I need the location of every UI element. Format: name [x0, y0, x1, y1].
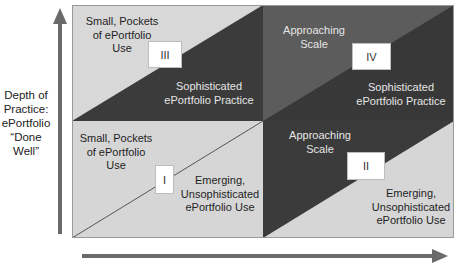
- quadrant-iv: Approaching Scale Sophisticated ePortfol…: [263, 5, 454, 121]
- text-line: of ePortfolio: [72, 146, 160, 160]
- text-line: Approaching: [271, 24, 357, 38]
- quadrant-i: Small, Pockets of ePortfolio Use Emergin…: [72, 121, 263, 238]
- text-line: Unsophisticated: [170, 188, 263, 202]
- y-axis-arrow-icon: [52, 8, 68, 234]
- y-axis-label-line: ePortfolio: [0, 116, 52, 130]
- text-line: Sophisticated: [150, 80, 263, 94]
- quadrant-i-number-box: I: [155, 165, 174, 194]
- text-line: Approaching: [277, 129, 363, 143]
- text-line: ePortfolio Practice: [345, 95, 454, 109]
- text-line: Small, Pockets: [76, 15, 168, 29]
- quadrant-iv-lower-text: Sophisticated ePortfolio Practice: [345, 81, 454, 108]
- y-axis-label-line: Practice:: [0, 102, 52, 116]
- y-axis-label: Depth of Practice: ePortfolio “Done Well…: [0, 88, 52, 158]
- text-line: Sophisticated: [345, 81, 454, 95]
- text-line: ePortfolio Use: [361, 214, 454, 228]
- text-line: of ePortfolio: [76, 29, 168, 43]
- text-line: ePortfolio Practice: [150, 94, 263, 108]
- y-axis-label-line: Depth of: [0, 88, 52, 102]
- quadrant-iii: Small, Pockets of ePortfolio Use Sophist…: [72, 5, 263, 121]
- text-line: Emerging,: [361, 187, 454, 201]
- text-line: Unsophisticated: [361, 201, 454, 215]
- text-line: Emerging,: [170, 174, 263, 188]
- y-axis-label-line: “Done: [0, 130, 52, 144]
- quadrant-iii-lower-text: Sophisticated ePortfolio Practice: [150, 80, 263, 107]
- quadrant-iv-upper-text: Approaching Scale: [271, 24, 357, 51]
- quadrant-ii: Approaching Scale Emerging, Unsophistica…: [263, 121, 454, 238]
- quadrant-iii-number-box: III: [148, 41, 182, 68]
- quadrant-iv-number-box: IV: [352, 43, 391, 70]
- text-line: ePortfolio Use: [170, 201, 263, 215]
- text-line: Scale: [271, 38, 357, 52]
- quadrant-i-lower-text: Emerging, Unsophisticated ePortfolio Use: [170, 174, 263, 215]
- text-line: Use: [72, 159, 160, 173]
- quadrant-i-upper-text: Small, Pockets of ePortfolio Use: [72, 132, 160, 173]
- y-axis-label-line: Well”: [0, 144, 52, 158]
- quadrant-ii-number-box: II: [347, 152, 385, 180]
- text-line: Small, Pockets: [72, 132, 160, 146]
- x-axis-arrow-icon: [82, 249, 450, 263]
- quadrant-ii-lower-text: Emerging, Unsophisticated ePortfolio Use: [361, 187, 454, 228]
